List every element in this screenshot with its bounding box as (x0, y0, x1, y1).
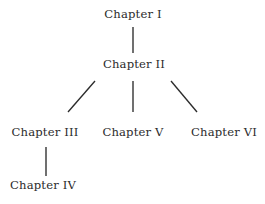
tree-edges (46, 27, 197, 176)
edge-layer (0, 0, 265, 204)
tree-node-ch1[interactable]: Chapter I (104, 9, 161, 21)
tree-node-ch5[interactable]: Chapter V (102, 127, 163, 139)
chapter-tree-diagram: Chapter IChapter IIChapter IIIChapter VC… (0, 0, 265, 204)
edge-ch2-ch3 (68, 81, 95, 112)
tree-node-ch3[interactable]: Chapter III (12, 127, 79, 139)
tree-node-ch4[interactable]: Chapter IV (10, 180, 76, 192)
edge-ch2-ch6 (171, 81, 197, 112)
tree-node-ch2[interactable]: Chapter II (103, 59, 165, 71)
tree-node-ch6[interactable]: Chapter VI (191, 127, 257, 139)
